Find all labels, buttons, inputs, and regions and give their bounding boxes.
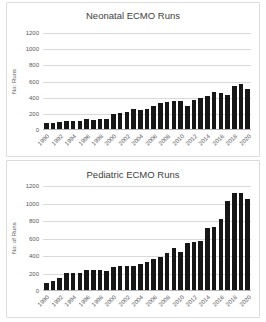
x-tick-label: 2016 <box>211 294 225 308</box>
x-tick-label: 2012 <box>185 294 199 308</box>
bar-2008 <box>165 253 170 290</box>
bar-2011 <box>185 106 190 129</box>
bar-2006 <box>151 259 156 290</box>
bar-2016 <box>219 219 224 290</box>
bar-1994 <box>71 273 76 290</box>
bar-1994 <box>71 121 76 129</box>
y-tick-label: 800 <box>13 217 39 225</box>
x-tick-label: 2018 <box>225 294 239 308</box>
x-axis: 1990199219941996199820002002200420062008… <box>43 130 251 156</box>
x-tick-label: 1990 <box>37 294 51 308</box>
gridline <box>43 33 251 34</box>
x-tick-label: 2010 <box>171 294 185 308</box>
bar-2005 <box>145 109 150 129</box>
bar-1992 <box>57 278 62 290</box>
bar-2003 <box>131 109 136 129</box>
x-tick-label: 1992 <box>50 294 64 308</box>
y-tick-label: 0 <box>13 126 39 134</box>
bar-1998 <box>98 119 103 129</box>
bar-1992 <box>57 122 62 129</box>
bar-2003 <box>131 266 136 290</box>
bar-2004 <box>138 264 143 290</box>
bar-2020 <box>245 89 250 129</box>
bar-1995 <box>78 121 83 129</box>
neonatal-chart-panel: Neonatal ECMO Runs No: Runs 020040060080… <box>6 2 260 157</box>
bar-1997 <box>91 120 96 129</box>
gridline <box>43 49 251 50</box>
bar-1999 <box>104 271 109 290</box>
bar-2004 <box>138 110 143 129</box>
x-tick-label: 2006 <box>144 133 158 147</box>
x-tick-label: 2004 <box>131 133 145 147</box>
gridline <box>43 204 251 205</box>
bar-2017 <box>225 95 230 129</box>
bar-2020 <box>245 199 250 290</box>
bar-2011 <box>185 243 190 290</box>
y-tick-label: 200 <box>13 270 39 278</box>
y-tick-label: 1000 <box>13 200 39 208</box>
bar-1996 <box>84 119 89 129</box>
bar-1993 <box>64 273 69 290</box>
y-tick-label: 0 <box>13 287 39 295</box>
y-tick-label: 1200 <box>13 29 39 37</box>
chart-title: Neonatal ECMO Runs <box>7 10 259 21</box>
bar-2008 <box>165 102 170 129</box>
x-tick-label: 1996 <box>77 133 91 147</box>
bar-2017 <box>225 201 230 290</box>
bar-2013 <box>198 241 203 290</box>
pediatric-chart-panel: Pediatric ECMO Runs No: of Runs 02004006… <box>6 160 260 318</box>
x-tick-label: 1992 <box>50 133 64 147</box>
x-tick-label: 2016 <box>211 133 225 147</box>
y-tick-label: 600 <box>13 235 39 243</box>
x-tick-label: 2002 <box>117 133 131 147</box>
x-tick-label: 2012 <box>185 133 199 147</box>
plot-area: 020040060080010001200 <box>43 186 251 291</box>
bar-2006 <box>151 106 156 129</box>
bar-2019 <box>239 84 244 129</box>
x-tick-label: 1998 <box>91 294 105 308</box>
x-tick-label: 2002 <box>117 294 131 308</box>
bar-2009 <box>172 101 177 129</box>
bar-1990 <box>44 283 49 290</box>
bar-2010 <box>178 252 183 290</box>
bar-2007 <box>158 103 163 129</box>
x-tick-label: 2006 <box>144 294 158 308</box>
bar-2005 <box>145 262 150 290</box>
bar-2019 <box>239 193 244 290</box>
x-tick-label: 1996 <box>77 294 91 308</box>
x-tick-label: 2014 <box>198 294 212 308</box>
x-tick-label: 2000 <box>104 294 118 308</box>
x-axis: 1990199219941996199820002002200420062008… <box>43 291 251 317</box>
bar-1995 <box>78 273 83 290</box>
y-tick-label: 200 <box>13 110 39 118</box>
bar-2000 <box>111 267 116 290</box>
x-tick-label: 1998 <box>91 133 105 147</box>
bar-2018 <box>232 193 237 290</box>
y-tick-label: 1200 <box>13 182 39 190</box>
x-tick-label: 2008 <box>158 294 172 308</box>
bar-2014 <box>205 228 210 290</box>
bar-1991 <box>51 123 56 129</box>
bar-1990 <box>44 123 49 129</box>
page: { "chart_data": [ { "type": "bar", "titl… <box>0 0 266 322</box>
bar-2002 <box>125 266 130 290</box>
bar-2001 <box>118 266 123 291</box>
bar-2016 <box>219 93 224 129</box>
bar-2015 <box>212 92 217 129</box>
x-tick-label: 1994 <box>64 294 78 308</box>
bar-2007 <box>158 257 163 290</box>
x-tick-label: 2004 <box>131 294 145 308</box>
bar-2002 <box>125 112 130 129</box>
gridline <box>43 65 251 66</box>
bar-1996 <box>84 270 89 290</box>
bar-2013 <box>198 98 203 129</box>
x-tick-label: 2020 <box>238 294 252 308</box>
bar-1991 <box>51 281 56 290</box>
bar-2018 <box>232 86 237 129</box>
x-tick-label: 2010 <box>171 133 185 147</box>
gridline <box>43 186 251 187</box>
gridline <box>43 82 251 83</box>
bar-2009 <box>172 248 177 290</box>
bar-2012 <box>192 242 197 290</box>
y-tick-label: 1000 <box>13 45 39 53</box>
